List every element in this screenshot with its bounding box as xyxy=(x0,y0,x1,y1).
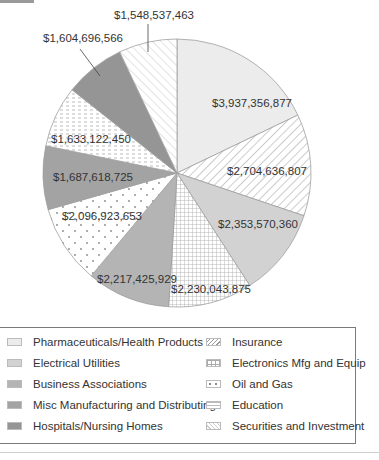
legend-label: Misc Manufacturing and Distributing xyxy=(33,399,216,411)
label-hospitals: $1,604,696,566 xyxy=(43,32,123,44)
legend-label: Insurance xyxy=(232,336,283,348)
legend-item-business-associations: Business Associations xyxy=(7,378,147,390)
chart-legend: Pharmaceuticals/Health Products Electric… xyxy=(0,327,356,444)
pie-chart: $3,937,356,877 $2,704,636,807 $2,353,570… xyxy=(0,0,379,330)
swatch-icon xyxy=(7,359,22,367)
swatch-icon xyxy=(7,401,22,409)
legend-item-insurance: Insurance xyxy=(206,336,283,348)
legend-item-pharmaceuticals: Pharmaceuticals/Health Products xyxy=(7,336,203,348)
legend-label: Business Associations xyxy=(33,378,147,390)
bottom-divider xyxy=(0,452,379,453)
label-pharmaceuticals: $3,937,356,877 xyxy=(212,97,292,109)
label-business-associations: $2,217,425,929 xyxy=(97,273,177,285)
swatch-icon xyxy=(206,380,221,388)
legend-label: Securities and Investment xyxy=(232,420,364,432)
legend-item-education: Education xyxy=(206,399,283,411)
legend-item-electronics: Electronics Mfg and Equip xyxy=(206,357,366,369)
label-electrical-utilities: $2,353,570,360 xyxy=(218,218,298,230)
legend-item-electrical-utilities: Electrical Utilities xyxy=(7,357,120,369)
swatch-icon xyxy=(206,401,221,409)
label-electronics: $2,230,043,875 xyxy=(171,283,251,295)
legend-item-securities: Securities and Investment xyxy=(206,420,364,432)
label-education: $1,633,122,450 xyxy=(51,133,131,145)
swatch-icon xyxy=(206,422,221,430)
label-misc-manufacturing: $1,687,618,725 xyxy=(53,171,133,183)
legend-item-misc-manufacturing: Misc Manufacturing and Distributing xyxy=(7,399,216,411)
legend-label: Hospitals/Nursing Homes xyxy=(33,420,163,432)
legend-label: Pharmaceuticals/Health Products xyxy=(33,336,203,348)
label-securities: $1,548,537,463 xyxy=(114,9,194,21)
legend-label: Electrical Utilities xyxy=(33,357,120,369)
swatch-icon xyxy=(206,359,221,367)
legend-item-oil-and-gas: Oil and Gas xyxy=(206,378,293,390)
legend-label: Education xyxy=(232,399,283,411)
legend-label: Oil and Gas xyxy=(232,378,293,390)
label-insurance: $2,704,636,807 xyxy=(227,165,307,177)
swatch-icon xyxy=(7,338,22,346)
swatch-icon xyxy=(7,380,22,388)
swatch-icon xyxy=(7,422,22,430)
legend-item-hospitals: Hospitals/Nursing Homes xyxy=(7,420,163,432)
swatch-icon xyxy=(206,338,221,346)
legend-label: Electronics Mfg and Equip xyxy=(232,357,366,369)
label-oil-and-gas: $2,096,923,653 xyxy=(62,210,142,222)
